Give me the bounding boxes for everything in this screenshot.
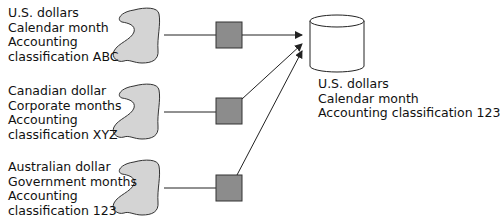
source-3-line-1: Australian dollar: [8, 160, 137, 175]
source-label-2: Canadian dollar Corporate months Account…: [8, 84, 122, 142]
source-2-line-3: Accounting: [8, 113, 122, 128]
source-blob-1: [113, 8, 159, 63]
target-line-3: Accounting classification 123: [318, 106, 500, 121]
target-label: U.S. dollars Calendar month Accounting c…: [318, 77, 500, 121]
source-label-1: U.S. dollars Calendar month Accounting c…: [8, 6, 118, 64]
target-line-2: Calendar month: [318, 92, 500, 107]
source-3-line-2: Government months: [8, 175, 137, 190]
source-label-3: Australian dollar Government months Acco…: [8, 160, 137, 218]
arrow-3: [237, 51, 302, 175]
database-cylinder-icon: [310, 15, 364, 72]
arrow-2: [242, 44, 302, 99]
source-3-line-4: classification 123: [8, 204, 137, 219]
source-3-line-3: Accounting: [8, 189, 137, 204]
transform-box-2: [216, 98, 242, 124]
transform-box-1: [216, 22, 242, 48]
target-line-1: U.S. dollars: [318, 77, 500, 92]
source-1-line-3: Accounting: [8, 35, 118, 50]
source-1-line-2: Calendar month: [8, 21, 118, 36]
source-2-line-4: classification XYZ: [8, 128, 122, 143]
source-1-line-4: classification ABC: [8, 50, 118, 65]
source-1-line-1: U.S. dollars: [8, 6, 118, 21]
source-2-line-2: Corporate months: [8, 99, 122, 114]
source-2-line-1: Canadian dollar: [8, 84, 122, 99]
transform-box-3: [216, 175, 242, 201]
